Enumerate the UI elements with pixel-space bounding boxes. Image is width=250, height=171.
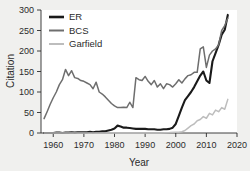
y-tick-label: 0 <box>29 128 34 138</box>
y-tick-label: 300 <box>19 5 34 15</box>
y-tick-label: 150 <box>19 67 34 77</box>
y-tick-label: 200 <box>19 46 34 56</box>
y-tick-label: 50 <box>24 108 34 118</box>
y-axis-title: Citation <box>5 54 16 88</box>
legend-label-er: ER <box>69 11 82 22</box>
legend-label-bcs: BCS <box>69 25 89 36</box>
y-axis-ticks: 050100150200250300 <box>19 5 41 138</box>
y-tick-label: 100 <box>19 87 34 97</box>
x-tick-label: 2020 <box>227 140 247 150</box>
x-axis-title: Year <box>129 157 150 168</box>
x-tick-label: 1980 <box>104 140 124 150</box>
x-tick-label: 1970 <box>74 140 94 150</box>
x-tick-label: 1990 <box>135 140 155 150</box>
x-tick-label: 2010 <box>196 140 216 150</box>
citation-line-chart: 050100150200250300 196019701980199020002… <box>0 0 250 171</box>
y-tick-label: 250 <box>19 26 34 36</box>
x-axis-ticks: 1960197019801990200020102020 <box>43 133 247 150</box>
chart-canvas: 050100150200250300 196019701980199020002… <box>0 0 250 171</box>
legend-label-garfield: Garfield <box>69 38 102 49</box>
x-tick-label: 1960 <box>43 140 63 150</box>
x-tick-label: 2000 <box>166 140 186 150</box>
